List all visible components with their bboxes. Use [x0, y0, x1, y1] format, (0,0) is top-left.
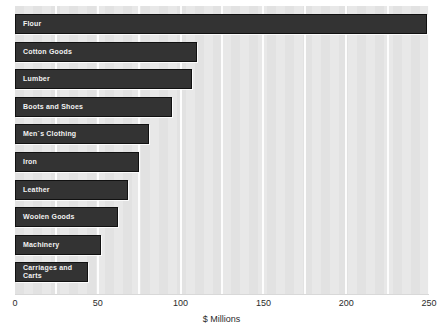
bar-row[interactable]: Carriages and Carts [15, 262, 429, 282]
x-axis-line [15, 294, 429, 295]
bar[interactable] [15, 180, 128, 200]
bar[interactable] [15, 207, 118, 227]
bar-chart: FlourCotton GoodsLumberBoots and ShoesMe… [0, 0, 443, 334]
x-tick-label: 100 [173, 298, 188, 308]
bar-row[interactable]: Machinery [15, 235, 429, 255]
plot-area: FlourCotton GoodsLumberBoots and ShoesMe… [15, 6, 429, 294]
bar-row[interactable]: Cotton Goods [15, 42, 429, 62]
bar[interactable] [15, 42, 197, 62]
bar-row[interactable]: Leather [15, 180, 429, 200]
bar[interactable] [15, 262, 88, 282]
bar[interactable] [15, 124, 149, 144]
bar[interactable] [15, 152, 139, 172]
bar-row[interactable]: Woolen Goods [15, 207, 429, 227]
bar[interactable] [15, 14, 427, 34]
bar-row[interactable]: Men`s Clothing [15, 124, 429, 144]
x-tick-label: 150 [256, 298, 271, 308]
bar-row[interactable]: Lumber [15, 69, 429, 89]
bar[interactable] [15, 69, 192, 89]
x-tick-label: 0 [12, 298, 17, 308]
x-axis-title: $ Millions [0, 314, 443, 324]
x-tick-label: 250 [421, 298, 436, 308]
bar-row[interactable]: Iron [15, 152, 429, 172]
bar-row[interactable]: Flour [15, 14, 429, 34]
bar[interactable] [15, 235, 101, 255]
bar[interactable] [15, 97, 172, 117]
bar-row[interactable]: Boots and Shoes [15, 97, 429, 117]
x-tick-label: 200 [339, 298, 354, 308]
x-tick-label: 50 [93, 298, 103, 308]
